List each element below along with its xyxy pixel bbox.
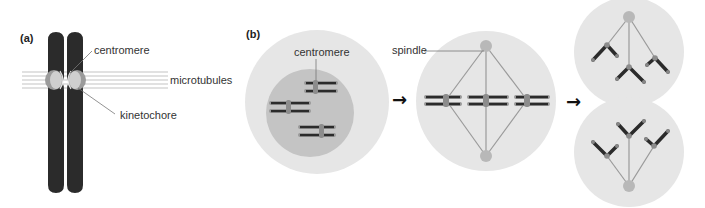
kinetochore-leader	[78, 88, 115, 114]
spindle-pole-bottom	[480, 150, 492, 162]
arrow-2: →	[566, 91, 581, 112]
cell-prophase: centromere	[245, 30, 389, 174]
cell-telophase	[574, 0, 684, 207]
spindle-pole-bottom	[623, 180, 635, 192]
spindle-pole-top	[480, 40, 492, 52]
kinetochore-left	[45, 70, 63, 90]
panel-b: (b) centromere	[245, 0, 684, 207]
chromatid-right	[67, 32, 83, 193]
centromere-label-b: centromere	[294, 46, 350, 58]
spindle-pole-top	[623, 11, 635, 23]
mitosis-diagram: (a) centromere microtubule	[0, 0, 705, 208]
chromatid-left	[48, 32, 64, 193]
panel-a: (a) centromere microtubule	[20, 32, 233, 193]
panel-a-label: (a)	[20, 32, 34, 44]
kinetochore-label: kinetochore	[120, 109, 177, 121]
cell-metaphase: spindle	[392, 31, 556, 171]
centromere-label-a: centromere	[94, 44, 150, 56]
kinetochore-right	[68, 70, 86, 90]
chromosome	[48, 32, 83, 193]
spindle-label: spindle	[392, 44, 427, 56]
arrow-1: →	[392, 89, 407, 110]
microtubules-label: microtubules	[170, 74, 233, 86]
panel-b-label: (b)	[246, 28, 260, 40]
microtubules	[22, 72, 168, 88]
